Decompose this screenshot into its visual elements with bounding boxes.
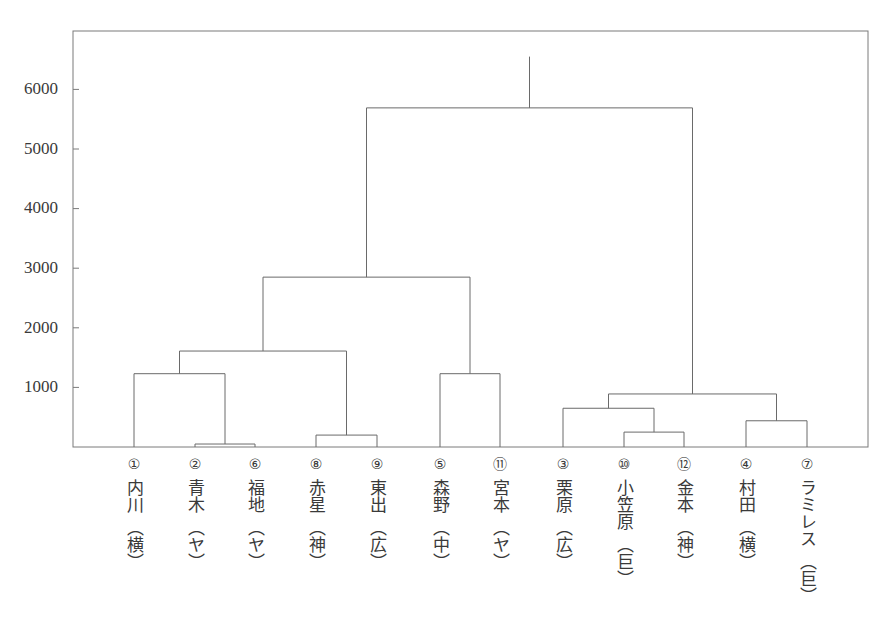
leaf-label: ④ 村田 （横） (731, 455, 761, 570)
y-tick-label: 6000 (24, 79, 58, 99)
y-tick-label: 3000 (24, 258, 58, 278)
team-label: （中） (430, 519, 450, 570)
leaf-number: ⑤ (425, 455, 455, 473)
dendrogram-link (563, 408, 654, 447)
leaf-number: ④ (731, 455, 761, 473)
player-name: 森野 (430, 479, 450, 513)
leaf-label: ⑥ 福地 （ヤ） (240, 455, 270, 570)
player-name: ラミレス (797, 479, 817, 547)
y-tick-label: 4000 (24, 198, 58, 218)
y-axis-ticks (73, 89, 79, 387)
leaf-label: ⑫ 金本 （神） (669, 455, 699, 570)
dendrogram-link (316, 435, 377, 447)
leaf-number: ① (119, 455, 149, 473)
player-name: 青木 (185, 479, 205, 513)
team-label: （広） (553, 519, 573, 570)
leaf-number: ⑩ (609, 455, 639, 473)
leaf-label: ③ 栗原 （広） (548, 455, 578, 570)
y-tick-label: 1000 (24, 377, 58, 397)
team-label: （巨） (797, 553, 817, 604)
leaf-number: ② (180, 455, 210, 473)
dendrogram-link (624, 432, 684, 447)
team-label: （ヤ） (185, 519, 205, 570)
leaf-label: ⑦ ラミレス （巨） (792, 455, 822, 604)
team-label: （巨） (614, 536, 634, 587)
player-name: 小笠原 (614, 479, 634, 530)
player-name: 宮本 (490, 479, 510, 513)
player-name: 栗原 (553, 479, 573, 513)
leaf-number: ⑨ (362, 455, 392, 473)
team-label: （神） (674, 519, 694, 570)
team-label: （ヤ） (245, 519, 265, 570)
team-label: （広） (367, 519, 387, 570)
leaf-label: ⑪ 宮本 （ヤ） (485, 455, 515, 570)
player-name: 金本 (674, 479, 694, 513)
dendrogram-links (134, 57, 807, 447)
leaf-label: ⑨ 東出 （広） (362, 455, 392, 570)
leaf-label: ① 内川 （横） (119, 455, 149, 570)
dendrogram-link (609, 394, 777, 421)
player-name: 内川 (124, 479, 144, 513)
leaf-number: ⑫ (669, 455, 699, 473)
dendrogram-link (180, 351, 347, 435)
player-name: 赤星 (306, 479, 326, 513)
leaf-label: ⑩ 小笠原 （巨） (609, 455, 639, 587)
y-tick-label: 2000 (24, 318, 58, 338)
leaf-number: ⑥ (240, 455, 270, 473)
y-tick-label: 5000 (24, 139, 58, 159)
dendrogram-link (440, 374, 500, 447)
team-label: （横） (736, 519, 756, 570)
dendrogram-link (367, 108, 693, 394)
dendrogram-link (263, 277, 470, 374)
dendrogram-link (134, 374, 225, 447)
leaf-number: ⑪ (485, 455, 515, 473)
team-label: （神） (306, 519, 326, 570)
team-label: （横） (124, 519, 144, 570)
plot-frame (73, 31, 868, 447)
leaf-label: ⑧ 赤星 （神） (301, 455, 331, 570)
leaf-label: ⑤ 森野 （中） (425, 455, 455, 570)
team-label: （ヤ） (490, 519, 510, 570)
player-name: 村田 (736, 479, 756, 513)
leaf-label: ② 青木 （ヤ） (180, 455, 210, 570)
dendrogram-link (746, 421, 807, 447)
leaf-number: ⑦ (792, 455, 822, 473)
leaf-number: ③ (548, 455, 578, 473)
leaf-number: ⑧ (301, 455, 331, 473)
player-name: 福地 (245, 479, 265, 513)
player-name: 東出 (367, 479, 387, 513)
